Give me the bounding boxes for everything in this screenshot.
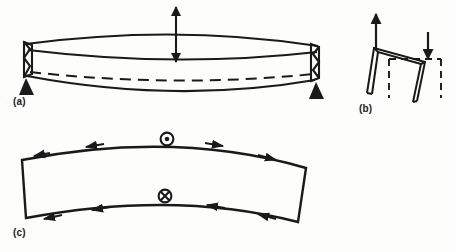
frame-deformed-shape xyxy=(367,48,425,102)
curved-beam-outline xyxy=(22,147,306,222)
beam-top-far-edge xyxy=(26,34,318,46)
beam-right-end-post xyxy=(311,44,319,81)
beam-top-near-edge xyxy=(28,50,317,60)
figure-container: (a) (b) (c) xyxy=(0,0,456,252)
top-shear-arrows-right xyxy=(205,143,276,160)
vector-into-page-icon xyxy=(159,190,172,203)
vector-out-of-page-icon xyxy=(161,133,174,146)
left-pinned-support xyxy=(19,78,34,95)
neutral-axis-dashed-curve xyxy=(30,72,314,81)
panel-label-b: (b) xyxy=(359,103,372,114)
panel-c-curved-beam xyxy=(22,133,306,222)
technical-figure xyxy=(0,0,456,252)
panel-b-portal-frame xyxy=(367,14,441,102)
panel-a-beam-diagram xyxy=(19,7,324,99)
panel-label-a: (a) xyxy=(13,96,26,107)
right-pinned-support xyxy=(309,82,324,99)
panel-label-c: (c) xyxy=(13,227,26,238)
bottom-shear-arrows-right xyxy=(207,205,276,219)
